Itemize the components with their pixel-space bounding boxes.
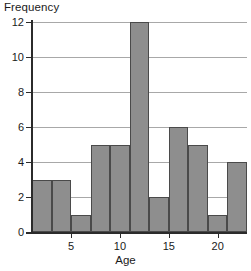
histogram-bar — [149, 197, 169, 232]
x-axis-title: Age — [0, 254, 251, 266]
y-axis-tick-label: 4 — [2, 156, 24, 168]
histogram-bar — [227, 162, 247, 232]
y-axis-tick-mark — [26, 22, 32, 23]
histogram-bar — [91, 145, 111, 233]
histogram-bar — [188, 145, 208, 233]
x-axis-tick-mark — [71, 233, 72, 238]
x-axis-tick-label: 10 — [107, 240, 133, 252]
y-axis-tick-labels: 024681012 — [0, 0, 24, 271]
x-axis-tick-label: 5 — [58, 240, 84, 252]
x-axis-tick-mark — [120, 233, 121, 238]
y-axis-tick-label: 12 — [2, 16, 24, 28]
histogram-bar — [32, 180, 52, 233]
y-axis-tick-mark — [26, 162, 32, 163]
y-axis-tick-label: 6 — [2, 121, 24, 133]
x-axis-tick-label: 15 — [156, 240, 182, 252]
y-axis-tick-label: 2 — [2, 191, 24, 203]
histogram-bar — [52, 180, 72, 233]
histogram-chart: Frequency 024681012 5101520 Age — [0, 0, 251, 271]
histogram-bar — [130, 22, 150, 232]
y-axis-tick-mark — [26, 127, 32, 128]
histogram-bar — [208, 215, 228, 233]
x-axis-tick-mark — [218, 233, 219, 238]
y-axis-tick-label: 0 — [2, 226, 24, 238]
x-axis-line — [26, 232, 247, 234]
y-axis-tick-mark — [26, 232, 32, 233]
histogram-bar — [169, 127, 189, 232]
x-axis-tick-mark — [169, 233, 170, 238]
histogram-bar — [110, 145, 130, 233]
x-axis-tick-label: 20 — [205, 240, 231, 252]
y-axis-tick-mark — [26, 57, 32, 58]
histogram-bar — [71, 215, 91, 233]
y-axis-tick-label: 8 — [2, 86, 24, 98]
plot-area — [32, 22, 247, 232]
y-axis-tick-mark — [26, 197, 32, 198]
y-axis-tick-label: 10 — [2, 51, 24, 63]
y-axis-tick-mark — [26, 92, 32, 93]
